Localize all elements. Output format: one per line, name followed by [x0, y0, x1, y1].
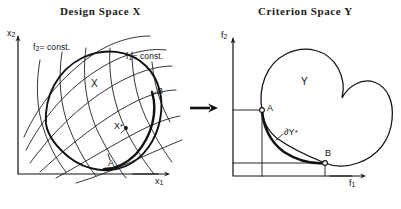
right-axis-y-label: f2 — [221, 30, 228, 40]
right-panel-graphic — [0, 0, 401, 209]
criterion-point-a-marker — [260, 108, 265, 113]
pareto-frontier-label: ∂Y* — [284, 127, 298, 137]
criterion-point-b-label: B — [325, 148, 331, 158]
frontier-label-leader — [276, 134, 283, 140]
right-axes — [230, 38, 366, 179]
figure-canvas: Design Space X Criterion Space Y — [0, 0, 401, 209]
criterion-point-a-label: A — [267, 103, 273, 113]
right-axis-x-label: f1 — [349, 178, 356, 188]
criterion-region-label: Y — [301, 76, 308, 87]
criterion-point-b-marker — [323, 161, 328, 166]
criterion-guide-lines — [233, 110, 325, 176]
